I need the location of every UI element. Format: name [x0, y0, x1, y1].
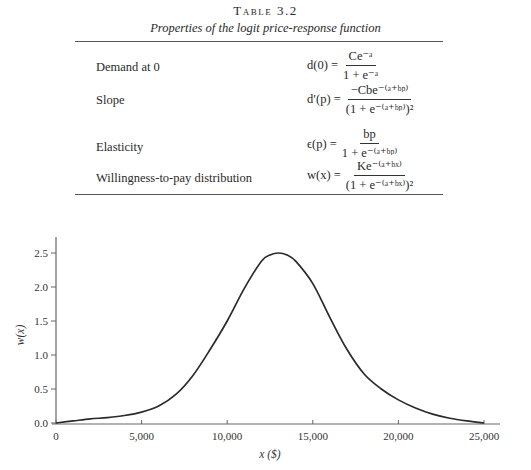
- y-axis-label: w(x): [14, 325, 27, 346]
- x-tick-label: 0: [53, 430, 59, 442]
- y-tick-label: 0.0: [34, 417, 48, 429]
- x-tick-label: 25,000: [469, 430, 500, 442]
- y-tick-label: 0.5: [34, 383, 48, 395]
- y-tick-label: 1.0: [34, 349, 48, 361]
- y-tick-label: 1.5: [34, 315, 48, 327]
- y-tick-label: 2.0: [34, 281, 48, 293]
- wtp-curve: [56, 253, 484, 423]
- x-tick-label: 10,000: [212, 430, 243, 442]
- x-axis-label: x ($): [258, 448, 281, 461]
- wtp-chart: 0.00.51.01.52.02.505,00010,00015,00020,0…: [0, 0, 531, 470]
- x-tick-label: 5,000: [129, 430, 154, 442]
- chart-axes: 0.00.51.01.52.02.505,00010,00015,00020,0…: [34, 237, 500, 442]
- y-tick-label: 2.5: [34, 247, 48, 259]
- x-tick-label: 15,000: [298, 430, 329, 442]
- x-tick-label: 20,000: [383, 430, 414, 442]
